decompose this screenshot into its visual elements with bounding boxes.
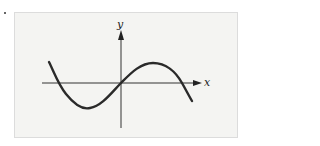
y-axis-arrow-icon — [118, 30, 124, 40]
y-axis-label: y — [117, 19, 123, 30]
x-axis-label: x — [204, 77, 210, 88]
x-axis-arrow-icon — [193, 80, 202, 86]
